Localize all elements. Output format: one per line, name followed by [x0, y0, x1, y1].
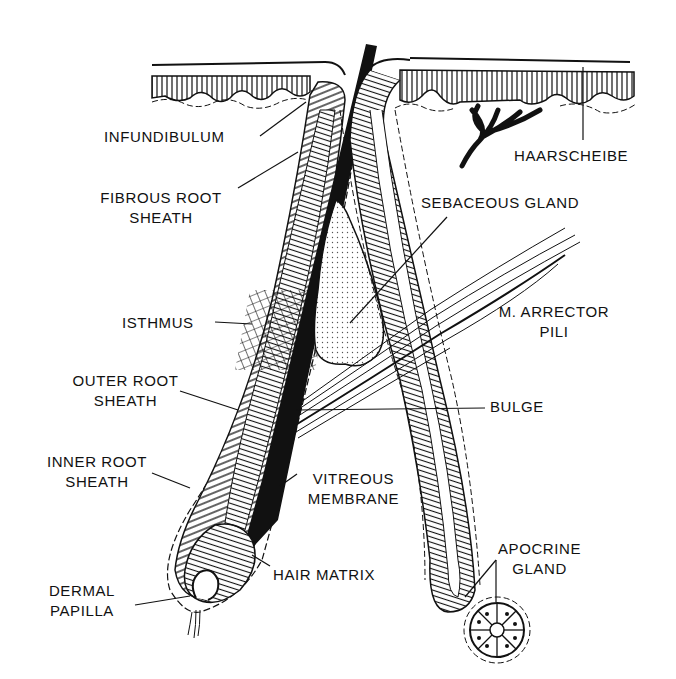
label-outer-root-sheath-line1: OUTER ROOT [58, 371, 193, 391]
label-inner-root-sheath-line1: INNER ROOT [32, 452, 162, 472]
hair-follicle-diagram: INFUNDIBULUM FIBROUS ROOT SHEATH ISTHMUS… [0, 0, 676, 679]
label-dermal-papilla-line2: PAPILLA [36, 601, 128, 621]
label-arrector-pili-line1: M. ARRECTOR [484, 302, 624, 322]
label-fibrous-root-sheath-line1: FIBROUS ROOT [86, 188, 236, 208]
apocrine-gland [464, 597, 530, 663]
label-isthmus: ISTHMUS [122, 313, 194, 333]
label-vitreous-membrane-line1: VITREOUS [296, 469, 411, 489]
label-dermal-papilla: DERMAL PAPILLA [36, 581, 128, 621]
label-sebaceous-gland: SEBACEOUS GLAND [421, 193, 579, 213]
label-apocrine-gland: APOCRINE GLAND [487, 539, 592, 579]
label-apocrine-gland-line1: APOCRINE [487, 539, 592, 559]
label-inner-root-sheath: INNER ROOT SHEATH [32, 452, 162, 492]
label-outer-root-sheath-line2: SHEATH [58, 391, 193, 411]
label-outer-root-sheath: OUTER ROOT SHEATH [58, 371, 193, 411]
label-bulge: BULGE [490, 397, 544, 417]
label-vitreous-membrane: VITREOUS MEMBRANE [296, 469, 411, 509]
label-hair-matrix: HAIR MATRIX [273, 565, 375, 585]
label-fibrous-root-sheath-line2: SHEATH [86, 208, 236, 228]
label-vitreous-membrane-line2: MEMBRANE [296, 489, 411, 509]
label-inner-root-sheath-line2: SHEATH [32, 472, 162, 492]
label-apocrine-gland-line2: GLAND [487, 559, 592, 579]
label-infundibulum: INFUNDIBULUM [104, 127, 225, 147]
label-dermal-papilla-line1: DERMAL [36, 581, 128, 601]
label-arrector-pili-line2: PILI [484, 322, 624, 342]
label-haarscheibe: HAARSCHEIBE [514, 146, 628, 166]
label-fibrous-root-sheath: FIBROUS ROOT SHEATH [86, 188, 236, 228]
label-arrector-pili: M. ARRECTOR PILI [484, 302, 624, 342]
